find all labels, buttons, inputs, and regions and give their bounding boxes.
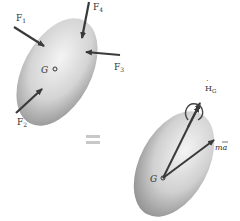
inertia-vector-label: ma: [215, 143, 228, 152]
center-of-mass-label: G: [150, 174, 157, 184]
dot-accent: ·: [206, 76, 209, 85]
center-of-mass-label: G: [41, 65, 48, 75]
force-f1-arrow: [14, 27, 44, 46]
angular-momentum-label: HG: [205, 84, 216, 94]
equals-sign: [86, 135, 100, 144]
force-f3-label: F3: [114, 62, 124, 73]
force-f4-label: F4: [93, 2, 103, 13]
force-f1-label: F1: [16, 13, 26, 24]
right-rigid-body: G HG · ma: [117, 76, 231, 221]
dynamics-diagram: G F1 F4 F3 F2 G HG · ma: [0, 0, 240, 221]
left-rigid-body: G F1 F4 F3 F2: [0, 2, 124, 139]
